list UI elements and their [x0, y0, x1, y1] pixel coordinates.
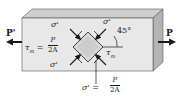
- bar-side-face: [153, 9, 163, 71]
- sigma-eq-fraction: P 2A: [110, 77, 120, 94]
- tau-eq-fraction: P 2A: [48, 37, 58, 54]
- sigma-label-top-right: σ': [103, 18, 111, 26]
- tau-eq-denominator: 2A: [48, 46, 58, 54]
- sigma-label-top-left: σ': [51, 21, 59, 29]
- stress-diagram: P' P σ' σ' σ' 45° τm τm = P 2A σ' = P 2A: [0, 0, 180, 102]
- tau-eq-numerator: P: [48, 37, 58, 46]
- sigma-equation-lhs: σ' =: [82, 84, 99, 92]
- tau-m-label-right: τm: [106, 49, 115, 59]
- tau-equation-lhs: τm =: [25, 44, 43, 54]
- angle-label: 45°: [117, 27, 131, 35]
- load-label-right: P: [166, 29, 173, 38]
- bar-top-face: [22, 9, 163, 18]
- tau-subscript: m: [110, 53, 115, 59]
- sigma-eq-equals: =: [92, 83, 99, 92]
- sigma-label-bottom-left: σ': [50, 61, 58, 69]
- sigma-eq-numerator: P: [110, 77, 120, 86]
- sigma-eq-symbol: σ': [82, 83, 90, 92]
- load-label-left: P': [6, 29, 16, 38]
- tau-eq-equals: =: [37, 43, 44, 52]
- load-arrow-left: [6, 39, 22, 46]
- sigma-eq-denominator: 2A: [110, 86, 120, 94]
- tau-eq-subscript: m: [29, 48, 34, 54]
